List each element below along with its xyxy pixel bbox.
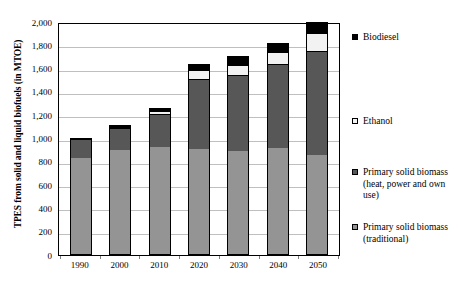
bar-stack[interactable] xyxy=(109,125,131,255)
y-tick-label: 2,000 xyxy=(0,19,52,28)
x-axis-tick-labels: 1990200020102020203020402050 xyxy=(58,259,340,275)
bar-column[interactable] xyxy=(227,24,249,255)
bar-segment[interactable] xyxy=(150,147,170,254)
y-tick-label: 600 xyxy=(0,182,52,191)
bar-segment[interactable] xyxy=(189,149,209,254)
bar-stack[interactable] xyxy=(306,22,328,255)
y-tick-label: 1,000 xyxy=(0,135,52,144)
legend-swatch-icon xyxy=(352,169,358,175)
bar-stack[interactable] xyxy=(188,64,210,255)
chart-legend: BiodieselEthanolPrimary solid biomass (h… xyxy=(352,24,460,254)
legend-item[interactable]: Ethanol xyxy=(352,116,455,128)
bar-segment[interactable] xyxy=(189,79,209,149)
legend-swatch-icon xyxy=(352,118,358,124)
legend-swatch-icon xyxy=(352,224,358,230)
bar-column[interactable] xyxy=(267,24,289,255)
biofuels-stacked-bar-chart: TPES from solid and liquid biofuels (in … xyxy=(0,0,461,288)
bar-segment[interactable] xyxy=(110,128,130,151)
x-tick-label: 2050 xyxy=(307,259,329,275)
bar-column[interactable] xyxy=(188,24,210,255)
bar-segment[interactable] xyxy=(268,44,288,52)
y-tick-label: 1,400 xyxy=(0,88,52,97)
bar-column[interactable] xyxy=(70,24,92,255)
y-tick-label: 0 xyxy=(0,252,52,261)
bar-series-container xyxy=(59,24,339,255)
x-tick-label: 2010 xyxy=(148,259,170,275)
y-tick-label: 800 xyxy=(0,158,52,167)
x-tick-label: 2040 xyxy=(267,259,289,275)
bar-segment[interactable] xyxy=(307,33,327,51)
bar-segment[interactable] xyxy=(71,158,91,254)
bar-stack[interactable] xyxy=(70,138,92,255)
legend-label: Primary solid biomass (traditional) xyxy=(363,222,455,245)
bar-segment[interactable] xyxy=(228,151,248,254)
bar-stack[interactable] xyxy=(267,43,289,255)
x-tick-label: 1990 xyxy=(69,259,91,275)
bar-segment[interactable] xyxy=(307,51,327,155)
bar-column[interactable] xyxy=(306,24,328,255)
legend-item[interactable]: Biodiesel xyxy=(352,32,455,44)
bar-segment[interactable] xyxy=(110,150,130,254)
legend-item[interactable]: Primary solid biomass (traditional) xyxy=(352,222,455,245)
bar-column[interactable] xyxy=(109,24,131,255)
y-tick-label: 1,600 xyxy=(0,65,52,74)
bar-segment[interactable] xyxy=(71,139,91,158)
y-axis-tick-labels: 02004006008001,0001,2001,4001,6001,8002,… xyxy=(0,0,58,288)
bar-column[interactable] xyxy=(149,24,171,255)
plot-area xyxy=(58,23,340,256)
legend-swatch-icon xyxy=(352,34,358,40)
legend-label: Ethanol xyxy=(363,116,455,128)
bar-segment[interactable] xyxy=(150,114,170,147)
bar-segment[interactable] xyxy=(307,23,327,33)
legend-label: Biodiesel xyxy=(363,32,455,44)
x-tick-label: 2020 xyxy=(188,259,210,275)
bar-segment[interactable] xyxy=(268,64,288,148)
legend-item[interactable]: Primary solid biomass (heat, power and o… xyxy=(352,167,455,202)
y-tick-label: 1,800 xyxy=(0,42,52,51)
legend-label: Primary solid biomass (heat, power and o… xyxy=(363,167,455,202)
bar-segment[interactable] xyxy=(307,155,327,254)
y-tick-label: 400 xyxy=(0,205,52,214)
bar-segment[interactable] xyxy=(228,75,248,151)
x-tick-label: 2000 xyxy=(109,259,131,275)
y-tick-label: 200 xyxy=(0,228,52,237)
bar-segment[interactable] xyxy=(268,52,288,64)
bar-segment[interactable] xyxy=(189,70,209,79)
y-tick-label: 1,200 xyxy=(0,112,52,121)
bar-stack[interactable] xyxy=(149,108,171,255)
bar-stack[interactable] xyxy=(227,56,249,255)
bar-segment[interactable] xyxy=(228,57,248,65)
bar-segment[interactable] xyxy=(268,148,288,254)
x-tick-label: 2030 xyxy=(228,259,250,275)
bar-segment[interactable] xyxy=(228,65,248,75)
